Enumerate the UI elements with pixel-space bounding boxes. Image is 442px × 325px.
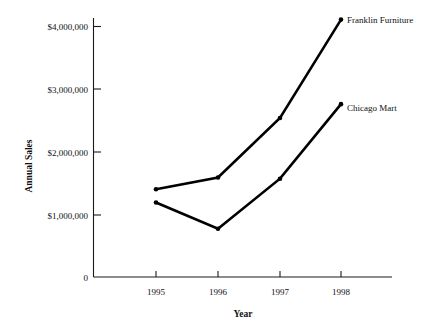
series-label-chicago-mart: Chicago Mart [347,103,397,113]
y-tick-marks [94,27,102,216]
data-point [339,102,344,107]
data-point [154,187,159,192]
chart-page: $4,000,000 $3,000,000 $2,000,000 $1,000,… [0,0,442,325]
series-line-chicago-mart [156,104,341,229]
series-group [154,17,344,231]
x-tick-label-1996: 1996 [209,287,228,297]
x-axis-title: Year [234,309,254,319]
line-chart: $4,000,000 $3,000,000 $2,000,000 $1,000,… [0,0,442,325]
data-point [278,176,283,181]
data-point [339,17,344,22]
data-point [216,226,221,231]
x-tick-label-1997: 1997 [271,287,290,297]
data-point [278,116,283,121]
series-line-franklin-furniture [156,20,341,190]
series-markers-chicago-mart [154,102,344,231]
y-axis-title: Annual Sales [24,139,34,192]
y-tick-label-4000000: $4,000,000 [48,22,89,32]
data-point [216,175,221,180]
y-tick-label-1000000: $1,000,000 [48,211,89,221]
series-markers-franklin-furniture [154,17,344,191]
y-tick-label-3000000: $3,000,000 [48,85,89,95]
x-tick-label-1995: 1995 [147,287,166,297]
x-tick-label-1998: 1998 [332,287,351,297]
data-point [154,200,159,205]
y-tick-label-2000000: $2,000,000 [48,148,89,158]
series-label-franklin-furniture: Franklin Furniture [347,15,413,25]
y-tick-label-0: 0 [84,273,89,283]
x-tick-marks [156,271,341,277]
